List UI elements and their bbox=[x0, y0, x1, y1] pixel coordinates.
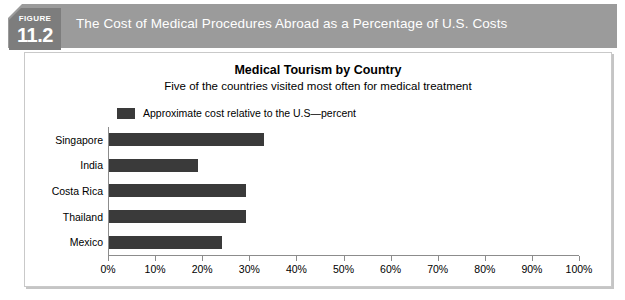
legend-label: Approximate cost relative to the U.S—per… bbox=[143, 107, 356, 119]
bar-row: India bbox=[25, 153, 613, 179]
figure-title: The Cost of Medical Procedures Abroad as… bbox=[76, 16, 606, 32]
x-tick-mark bbox=[391, 256, 392, 261]
figure-container: FIGURE 11.2 The Cost of Medical Procedur… bbox=[0, 0, 625, 300]
x-tick-label: 100% bbox=[566, 263, 593, 275]
bar-row: Singapore bbox=[25, 127, 613, 153]
bar-row: Mexico bbox=[25, 229, 613, 255]
bar bbox=[109, 184, 246, 197]
chart-subtitle: Five of the countries visited most often… bbox=[25, 80, 611, 92]
x-axis-ticks: 0%10%20%30%40%50%60%70%80%90%100% bbox=[25, 256, 613, 286]
bar-row: Thailand bbox=[25, 204, 613, 230]
x-tick-label: 40% bbox=[286, 263, 307, 275]
bar-category-label: Costa Rica bbox=[25, 185, 103, 197]
bar-rows: SingaporeIndiaCosta RicaThailandMexico bbox=[25, 127, 613, 255]
bar-row: Costa Rica bbox=[25, 178, 613, 204]
source-note-clipped bbox=[24, 293, 454, 300]
bar bbox=[109, 159, 198, 172]
figure-number-box: FIGURE 11.2 bbox=[9, 8, 61, 50]
x-tick-mark bbox=[579, 256, 580, 261]
x-tick-label: 60% bbox=[380, 263, 401, 275]
x-tick-label: 10% bbox=[145, 263, 166, 275]
x-tick-mark bbox=[438, 256, 439, 261]
plot-area: SingaporeIndiaCosta RicaThailandMexico 0… bbox=[25, 127, 613, 287]
bar bbox=[109, 210, 246, 223]
figure-number-label: 11.2 bbox=[9, 24, 61, 46]
x-tick-label: 30% bbox=[239, 263, 260, 275]
bar-category-label: Thailand bbox=[25, 211, 103, 223]
x-tick-label: 20% bbox=[192, 263, 213, 275]
x-tick-label: 50% bbox=[333, 263, 354, 275]
x-tick-label: 80% bbox=[474, 263, 495, 275]
x-tick-mark bbox=[249, 256, 250, 261]
x-tick-mark bbox=[155, 256, 156, 261]
bar bbox=[109, 133, 264, 146]
bar bbox=[109, 236, 222, 249]
x-tick-mark bbox=[532, 256, 533, 261]
chart-legend: Approximate cost relative to the U.S—per… bbox=[117, 107, 356, 119]
x-tick-mark bbox=[344, 256, 345, 261]
bar-category-label: Mexico bbox=[25, 236, 103, 248]
chart-panel: Medical Tourism by Country Five of the c… bbox=[24, 52, 612, 287]
legend-swatch-icon bbox=[117, 108, 135, 119]
x-tick-label: 90% bbox=[521, 263, 542, 275]
x-tick-label: 0% bbox=[100, 263, 115, 275]
chart-title: Medical Tourism by Country bbox=[25, 63, 611, 77]
bar-category-label: Singapore bbox=[25, 134, 103, 146]
x-tick-mark bbox=[296, 256, 297, 261]
bar-category-label: India bbox=[25, 159, 103, 171]
x-tick-mark bbox=[202, 256, 203, 261]
x-tick-mark bbox=[485, 256, 486, 261]
x-tick-mark bbox=[108, 256, 109, 261]
x-tick-label: 70% bbox=[427, 263, 448, 275]
